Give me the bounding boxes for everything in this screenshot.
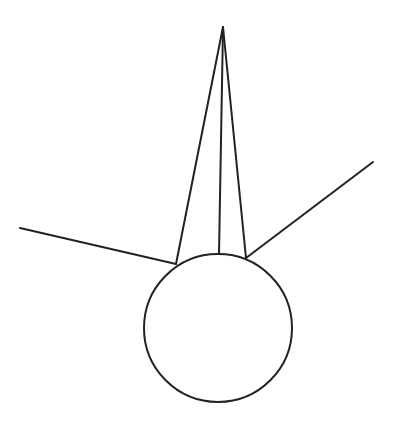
diagram-canvas <box>0 0 400 427</box>
side-lines <box>20 162 373 264</box>
side-line-1 <box>20 228 176 264</box>
spike-lines <box>176 27 246 264</box>
circle-body <box>144 254 292 402</box>
spike-line-1 <box>176 27 223 264</box>
side-line-2 <box>246 162 373 258</box>
line-drawing <box>0 0 400 427</box>
spike-line-3 <box>223 27 246 258</box>
spike-line-2 <box>219 27 223 254</box>
